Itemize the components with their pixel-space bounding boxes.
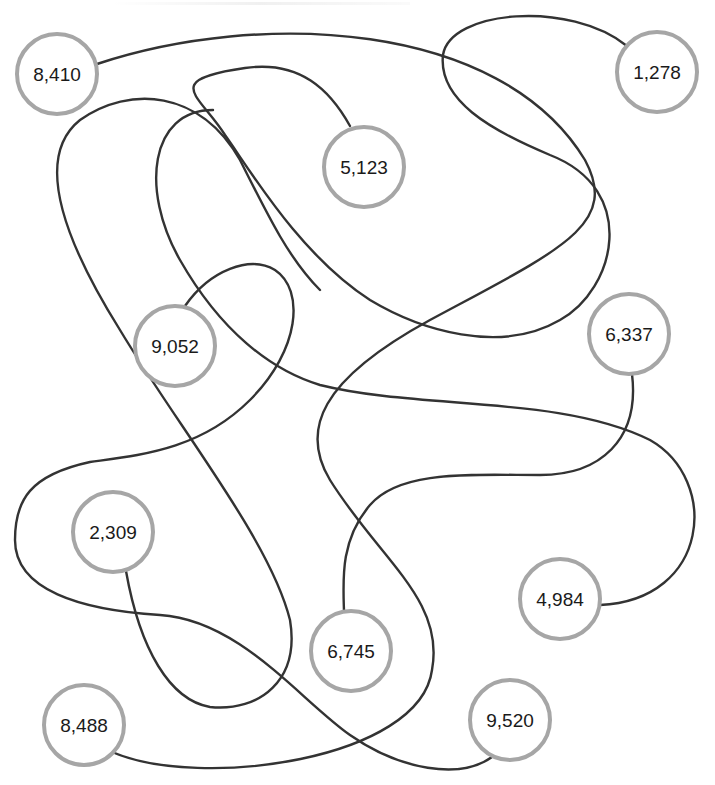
node-label: 9,052 bbox=[151, 336, 199, 357]
number-node: 1,278 bbox=[617, 32, 697, 112]
number-node: 4,984 bbox=[520, 559, 600, 639]
node-label: 9,520 bbox=[486, 710, 534, 731]
number-node: 9,520 bbox=[470, 680, 550, 760]
number-nodes: 8,4101,2785,1239,0526,3372,3094,9846,745… bbox=[17, 32, 697, 765]
node-label: 5,123 bbox=[340, 157, 388, 178]
number-node: 8,488 bbox=[44, 685, 124, 765]
number-node: 9,052 bbox=[135, 306, 215, 386]
node-label: 4,984 bbox=[536, 589, 584, 610]
connection-line bbox=[57, 99, 320, 708]
node-label: 6,337 bbox=[605, 324, 653, 345]
node-label: 6,745 bbox=[327, 641, 375, 662]
node-label: 8,488 bbox=[60, 715, 108, 736]
node-label: 1,278 bbox=[633, 62, 681, 83]
diagram-svg: 8,4101,2785,1239,0526,3372,3094,9846,745… bbox=[0, 0, 715, 785]
number-node: 6,337 bbox=[589, 294, 669, 374]
node-label: 8,410 bbox=[33, 64, 81, 85]
number-node: 5,123 bbox=[324, 127, 404, 207]
number-node: 6,745 bbox=[311, 611, 391, 691]
node-label: 2,309 bbox=[89, 522, 137, 543]
connection-line bbox=[193, 16, 627, 337]
diagram-canvas: 8,4101,2785,1239,0526,3372,3094,9846,745… bbox=[0, 0, 715, 785]
number-node: 2,309 bbox=[73, 492, 153, 572]
number-node: 8,410 bbox=[17, 34, 97, 114]
